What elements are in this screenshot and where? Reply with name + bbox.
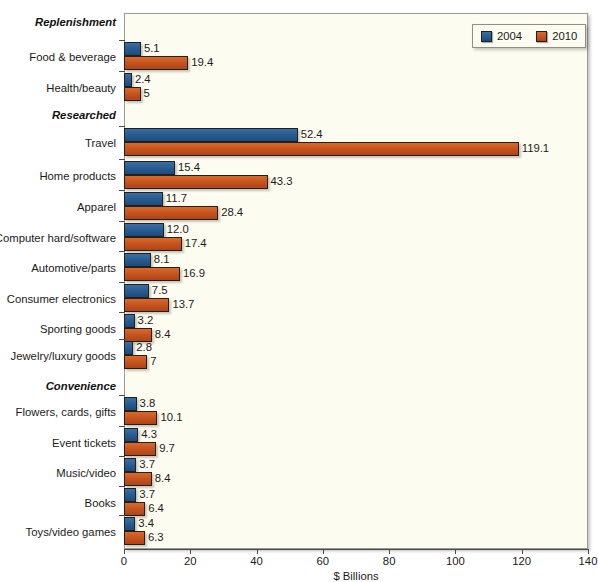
bar-2004[interactable]	[124, 488, 136, 502]
x-tick	[257, 549, 258, 554]
bar-2010[interactable]	[124, 142, 519, 156]
category-tick	[119, 251, 125, 252]
bar-2010[interactable]	[124, 411, 157, 425]
bar-2010[interactable]	[124, 206, 218, 220]
category-tick	[119, 40, 125, 41]
category-tick	[119, 190, 125, 191]
x-tick	[455, 549, 456, 554]
bar-2004[interactable]	[124, 223, 164, 237]
bar-2004[interactable]	[124, 341, 133, 355]
legend-swatch-2004	[481, 31, 492, 42]
x-tick	[323, 549, 324, 554]
x-tick-label: 20	[184, 555, 197, 567]
bar-value-label: 15.4	[175, 160, 200, 174]
bar-group-2004-5: 12.0	[124, 223, 588, 237]
bar-value-label: 3.2	[135, 313, 154, 327]
category-label-14: Toys/video games	[0, 513, 118, 551]
category-tick	[119, 312, 125, 313]
x-tick	[124, 549, 125, 554]
bar-value-label: 5	[141, 86, 150, 100]
bar-group-2004-14: 3.4	[124, 517, 588, 531]
bar-group-2004-13: 3.7	[124, 488, 588, 502]
x-tick-label: 100	[446, 555, 465, 567]
bar-group-2004-1: 2.4	[124, 73, 588, 87]
x-tick-label: 0	[121, 555, 127, 567]
category-tick	[119, 426, 125, 427]
bar-group-2010-6: 16.9	[124, 267, 588, 281]
x-tick	[588, 549, 589, 554]
bar-group-2010-14: 6.3	[124, 531, 588, 545]
bar-group-2004-7: 7.5	[124, 284, 588, 298]
bar-group-2010-10: 10.1	[124, 411, 588, 425]
x-tick	[190, 549, 191, 554]
bar-2004[interactable]	[124, 73, 132, 87]
bar-2010[interactable]	[124, 175, 268, 189]
bar-value-label: 3.4	[135, 516, 154, 530]
bar-group-2004-12: 3.7	[124, 458, 588, 472]
x-tick-label: 80	[383, 555, 396, 567]
x-tick-label: 120	[512, 555, 531, 567]
bar-2004[interactable]	[124, 314, 135, 328]
bar-group-2004-2: 52.4	[124, 128, 588, 142]
x-tick-label: 140	[579, 555, 598, 567]
bar-2010[interactable]	[124, 355, 147, 369]
category-tick	[119, 71, 125, 72]
group-header-replenishment: Replenishment	[0, 14, 118, 30]
bar-2004[interactable]	[124, 253, 151, 267]
bar-group-2010-2: 119.1	[124, 142, 588, 156]
x-tick	[389, 549, 390, 554]
bar-2004[interactable]	[124, 458, 136, 472]
bar-value-label: 16.9	[180, 266, 205, 280]
bar-value-label: 12.0	[164, 222, 189, 236]
bar-value-label: 2.4	[132, 72, 151, 86]
category-tick	[119, 486, 125, 487]
bar-value-label: 4.3	[138, 427, 157, 441]
bar-value-label: 17.4	[182, 236, 207, 250]
bar-value-label: 6.3	[145, 530, 164, 544]
bar-group-2010-3: 43.3	[124, 175, 588, 189]
bar-group-2004-11: 4.3	[124, 428, 588, 442]
group-header-researched: Researched	[0, 107, 118, 123]
legend-item-2004[interactable]: 2004	[481, 30, 522, 42]
chart-rows-layer: ReplenishmentResearchedConvenienceFood &…	[0, 0, 598, 582]
bar-2004[interactable]	[124, 128, 298, 142]
category-tick	[119, 159, 125, 160]
bar-2004[interactable]	[124, 161, 175, 175]
bar-2004[interactable]	[124, 517, 135, 531]
bar-2004[interactable]	[124, 397, 137, 411]
bar-2010[interactable]	[124, 531, 145, 545]
bar-2004[interactable]	[124, 284, 149, 298]
bar-value-label: 52.4	[298, 127, 323, 141]
bar-value-label: 43.3	[268, 174, 293, 188]
bar-value-label: 8.4	[152, 471, 171, 485]
legend-swatch-2010	[536, 31, 547, 42]
category-tick	[119, 221, 125, 222]
bar-2010[interactable]	[124, 56, 188, 70]
chart-legend: 2004 2010	[472, 24, 586, 48]
x-axis-title: $ Billions	[124, 570, 588, 582]
legend-label-2010: 2010	[552, 30, 577, 42]
legend-item-2010[interactable]: 2010	[536, 30, 577, 42]
bar-value-label: 119.1	[519, 141, 549, 155]
bar-group-2004-3: 15.4	[124, 161, 588, 175]
x-tick-label: 60	[317, 555, 330, 567]
category-label-9: Jewelry/luxury goods	[0, 337, 118, 375]
bar-group-2004-6: 8.1	[124, 253, 588, 267]
bar-value-label: 19.4	[188, 55, 213, 69]
bar-2010[interactable]	[124, 267, 180, 281]
bar-2004[interactable]	[124, 192, 163, 206]
bar-value-label: 3.7	[136, 487, 155, 501]
bar-2004[interactable]	[124, 428, 138, 442]
bar-value-label: 8.1	[151, 252, 170, 266]
bar-2010[interactable]	[124, 87, 141, 101]
bar-group-2004-8: 3.2	[124, 314, 588, 328]
bar-value-label: 13.7	[169, 297, 194, 311]
x-tick-label: 40	[250, 555, 263, 567]
bar-value-label: 7	[147, 354, 156, 368]
bar-2004[interactable]	[124, 42, 141, 56]
category-tick	[119, 395, 125, 396]
bar-group-2004-9: 2.8	[124, 341, 588, 355]
bar-group-2010-1: 5	[124, 87, 588, 101]
category-label-1: Health/beauty	[0, 69, 118, 107]
x-axis-line	[124, 549, 588, 550]
